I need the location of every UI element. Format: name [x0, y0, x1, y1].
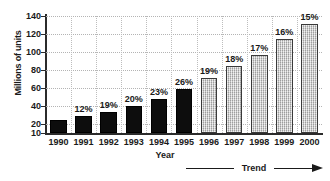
x-axis-title: Year — [0, 150, 330, 160]
y-tick-label: 60 — [15, 84, 41, 93]
x-axis-line — [45, 133, 323, 135]
bar-1993 — [126, 106, 143, 133]
trend-line-right — [274, 168, 314, 169]
trend-arrow-icon — [312, 164, 323, 172]
y-tick-label: 80 — [15, 66, 41, 75]
vertical-gridline — [121, 16, 122, 133]
bar-2000 — [301, 24, 318, 133]
trend-annotation: Trend — [186, 163, 326, 175]
vertical-gridline — [71, 16, 72, 133]
bar-1996 — [201, 78, 218, 133]
chart-figure: Millions of units 1020406080100120140 12… — [0, 0, 330, 181]
data-label-2000: 15% — [296, 13, 323, 22]
trend-line-left — [186, 168, 234, 169]
x-tick-label-2000: 2000 — [295, 137, 324, 147]
data-label-1992: 19% — [95, 101, 122, 110]
data-label-1997: 18% — [221, 55, 248, 64]
y-tick-label: 40 — [15, 102, 41, 111]
data-label-1996: 19% — [196, 67, 223, 76]
data-label-1994: 23% — [146, 88, 173, 97]
bar-1999 — [276, 39, 293, 133]
data-label-1998: 17% — [246, 44, 273, 53]
bar-1995 — [176, 89, 193, 133]
bar-1998 — [251, 55, 268, 133]
y-tick-label: 120 — [15, 30, 41, 39]
y-tick-label: 20 — [15, 120, 41, 129]
y-tick-mark — [41, 133, 46, 134]
bar-1997 — [226, 66, 243, 133]
data-label-1995: 26% — [171, 78, 198, 87]
y-tick-label: 140 — [15, 12, 41, 21]
trend-label: Trend — [234, 163, 274, 174]
bar-1994 — [151, 99, 168, 133]
bar-1991 — [75, 116, 92, 133]
vertical-gridline — [146, 16, 147, 133]
data-label-1993: 20% — [121, 95, 148, 104]
y-tick-label: 100 — [15, 48, 41, 57]
gridline — [46, 16, 322, 17]
data-label-1999: 16% — [271, 28, 298, 37]
data-label-1991: 12% — [70, 105, 97, 114]
y-tick-label: 10 — [15, 129, 41, 138]
bar-1990 — [50, 120, 67, 133]
vertical-gridline — [171, 16, 172, 133]
vertical-gridline — [247, 16, 248, 133]
vertical-gridline — [96, 16, 97, 133]
bar-1992 — [100, 112, 117, 133]
